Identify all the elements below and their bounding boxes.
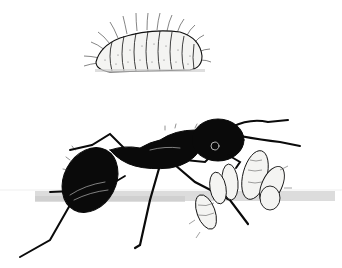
caterpillar-top xyxy=(84,13,211,72)
illustration-canvas xyxy=(0,0,342,268)
